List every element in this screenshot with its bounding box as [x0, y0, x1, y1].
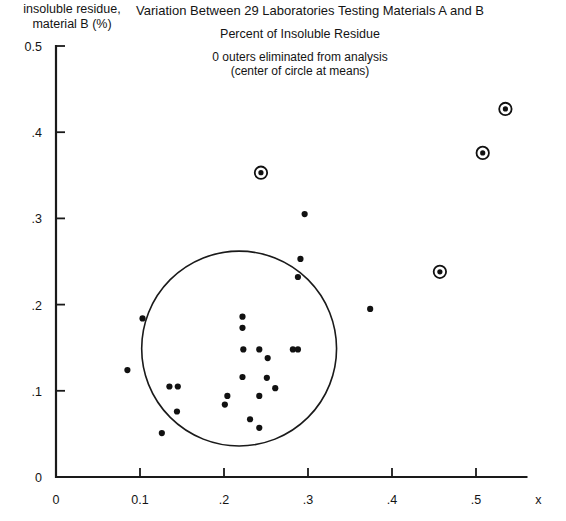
data-point — [297, 256, 303, 262]
x-tick-label: .3 — [303, 493, 313, 507]
data-point — [302, 211, 308, 217]
x-axis-symbol-label: x — [535, 493, 542, 507]
outer-data-point — [503, 106, 508, 111]
y-tick-label: .2 — [32, 299, 42, 313]
data-point — [175, 383, 181, 389]
data-point — [239, 325, 245, 331]
x-tick-label: .4 — [387, 493, 397, 507]
axis-lines — [56, 46, 526, 477]
x-tick-label: .5 — [471, 493, 481, 507]
data-point — [265, 355, 271, 361]
data-point — [256, 393, 262, 399]
y-tick-label: 0 — [35, 471, 42, 485]
data-point — [124, 367, 130, 373]
axes-group — [56, 46, 526, 477]
data-point — [247, 416, 253, 422]
data-point — [264, 375, 270, 381]
x-tick-label: 0.1 — [131, 493, 148, 507]
reference-circle — [142, 251, 337, 446]
data-point — [174, 408, 180, 414]
data-point — [295, 274, 301, 280]
data-point — [139, 315, 145, 321]
outer-data-point — [480, 150, 485, 155]
data-point — [239, 314, 245, 320]
y-tick-label: .4 — [32, 126, 42, 140]
reference-circle-group — [142, 251, 337, 446]
axis-end-label-group: x — [535, 493, 542, 507]
data-point — [239, 374, 245, 380]
data-point — [295, 346, 301, 352]
data-point — [367, 306, 373, 312]
data-point — [159, 430, 165, 436]
data-point — [272, 385, 278, 391]
data-point — [224, 393, 230, 399]
y-tick-label: .3 — [32, 212, 42, 226]
x-tick-label: 0 — [53, 493, 60, 507]
data-point — [166, 383, 172, 389]
tick-marks-group — [56, 132, 476, 477]
data-point — [256, 425, 262, 431]
outer-data-point — [258, 170, 263, 175]
x-tick-label: .2 — [219, 493, 229, 507]
outer-data-point — [437, 269, 442, 274]
scatter-plot-canvas: 00.1.2.3.4.50.1.2.3.40.5 x — [0, 0, 566, 521]
data-point — [240, 346, 246, 352]
y-tick-label: .1 — [32, 385, 42, 399]
data-point — [256, 346, 262, 352]
data-point — [222, 401, 228, 407]
chart-root: insoluble residue, material B (%) Variat… — [0, 0, 566, 521]
tick-labels-group: 00.1.2.3.4.50.1.2.3.40.5 — [25, 40, 482, 507]
y-tick-label: 0.5 — [25, 40, 42, 54]
